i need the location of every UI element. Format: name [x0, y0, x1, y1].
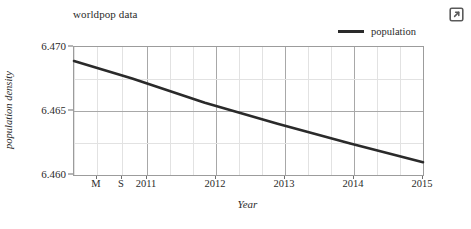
x-axis-title: Year: [73, 198, 422, 210]
external-link-icon[interactable]: [449, 7, 464, 22]
y-tick-label-2: 6.460: [41, 168, 66, 180]
plot-area: [73, 46, 424, 176]
x-tick-label-0: M: [91, 178, 100, 189]
chart-screenshot-root: worldpop data population 6.470 6.465 6.4…: [0, 0, 471, 229]
y-axis-title: population density: [3, 71, 14, 149]
chart-title: worldpop data: [73, 8, 138, 20]
y-tick-label-0: 6.470: [41, 40, 66, 52]
x-tick-label-5: 2014: [343, 178, 364, 189]
x-tick-label-1: S: [118, 178, 124, 189]
series-line-population: [74, 47, 423, 175]
legend-label-population: population: [371, 26, 416, 37]
x-tick-label-3: 2012: [205, 178, 226, 189]
x-tick-label-4: 2013: [274, 178, 295, 189]
x-tick-label-2: 2011: [136, 178, 157, 189]
plot-gridlines: [74, 47, 423, 175]
x-tick-label-6: 2015: [412, 178, 433, 189]
chart-figure: worldpop data population 6.470 6.465 6.4…: [0, 0, 471, 229]
legend-swatch-population: [338, 30, 364, 33]
chart-legend: population: [338, 26, 416, 37]
y-tick-label-1: 6.465: [41, 104, 66, 116]
